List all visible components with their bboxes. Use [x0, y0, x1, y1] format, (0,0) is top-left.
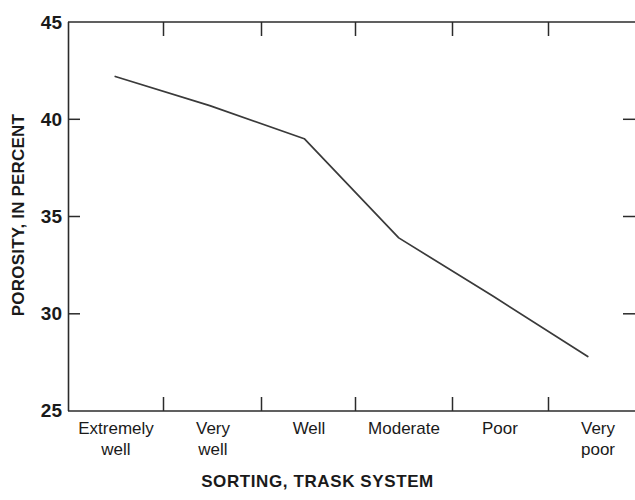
x-tick-label-line1: Very [196, 419, 230, 438]
x-tick-label-line2: poor [523, 439, 635, 460]
data-line-porosity [115, 76, 588, 356]
x-axis-title: SORTING, TRASK SYSTEM [0, 472, 635, 492]
x-tick-label-line2: well [138, 439, 288, 460]
x-axis-tick-labels: Extremely well Very well Well Moderate P… [0, 418, 635, 466]
x-tick-label-line1: Very [581, 419, 615, 438]
x-tick-label-very-poor: Very poor [523, 418, 635, 460]
x-tick-label-line1: Well [293, 419, 326, 438]
x-tick-label-line1: Poor [482, 419, 518, 438]
chart-figure: POROSITY, IN PERCENT 45 40 35 30 25 [0, 0, 635, 500]
